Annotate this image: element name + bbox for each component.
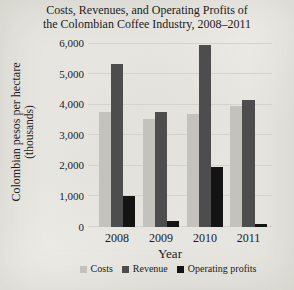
x-tick-label-2011: 2011 — [227, 231, 271, 245]
y-tick-label-6000: 6,000 — [30, 37, 84, 50]
legend-label-costs: Costs — [91, 263, 113, 275]
bar-operating-profits-2010 — [211, 167, 223, 227]
gridline-6000 — [88, 43, 272, 44]
y-tick-label-2000: 2,000 — [30, 159, 84, 172]
bar-operating-profits-2011 — [255, 224, 267, 227]
legend-label-revenue: Revenue — [133, 263, 168, 275]
bar-revenue-2008 — [111, 64, 123, 228]
legend-swatch-revenue — [122, 266, 129, 273]
x-axis-label: Year — [78, 246, 262, 261]
legend-item-operating-profits: Operating profits — [177, 263, 257, 275]
x-tick-label-2008: 2008 — [95, 231, 139, 245]
y-tick-label-5000: 5,000 — [30, 68, 84, 81]
bar-revenue-2010 — [199, 45, 211, 227]
legend-item-costs: Costs — [80, 263, 113, 275]
x-tick-label-2009: 2009 — [139, 231, 183, 245]
y-tick-label-3000: 3,000 — [30, 129, 84, 142]
bar-costs-2011 — [230, 106, 242, 227]
y-tick-label-4000: 4,000 — [30, 98, 84, 111]
x-axis-ticks: 2008200920102011 — [0, 231, 294, 245]
chart-figure: Costs, Revenues, and Operating Profits o… — [0, 0, 294, 290]
bar-costs-2009 — [143, 119, 155, 228]
bar-costs-2008 — [99, 112, 111, 227]
bar-operating-profits-2008 — [123, 196, 135, 227]
bar-costs-2010 — [187, 114, 199, 227]
y-tick-label-1000: 1,000 — [30, 190, 84, 203]
legend-swatch-costs — [80, 266, 87, 273]
x-tick-label-2010: 2010 — [183, 231, 227, 245]
legend-label-operating-profits: Operating profits — [188, 263, 257, 275]
bar-operating-profits-2009 — [167, 221, 179, 227]
legend-item-revenue: Revenue — [122, 263, 168, 275]
legend-swatch-operating-profits — [177, 266, 184, 273]
plot-area — [88, 38, 272, 227]
bar-revenue-2009 — [155, 112, 167, 227]
y-axis-ticks: 01,0002,0003,0004,0005,0006,000 — [30, 0, 84, 290]
y-axis-label-line1: Colombian pesos per hectare — [10, 32, 23, 232]
bar-revenue-2011 — [242, 100, 254, 227]
legend: CostsRevenueOperating profits — [46, 263, 290, 275]
